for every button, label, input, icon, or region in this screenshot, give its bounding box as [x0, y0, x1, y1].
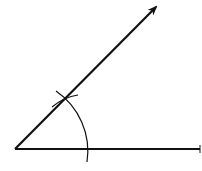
- angled-ray: [15, 7, 156, 149]
- intersection-arc: [52, 95, 78, 107]
- angle-construction-diagram: [0, 0, 202, 171]
